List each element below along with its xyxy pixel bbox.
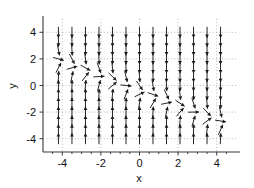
arrow-head	[205, 52, 209, 55]
arrow-head	[60, 58, 64, 62]
arrow-head	[111, 34, 115, 37]
field-arrow	[151, 27, 155, 38]
arrow-head	[84, 34, 88, 37]
field-arrow	[108, 82, 116, 89]
arrow-head	[178, 79, 182, 82]
arrow-head	[165, 61, 169, 64]
field-arrow	[57, 71, 61, 82]
arrow-head	[165, 79, 169, 82]
arrow-head	[165, 70, 169, 73]
arrow-head	[84, 43, 88, 46]
arrow-head	[205, 79, 209, 82]
arrow-head	[151, 52, 155, 55]
field-arrow	[148, 93, 158, 97]
arrow-head	[219, 70, 223, 73]
arrow-head	[192, 61, 196, 64]
arrow-head	[138, 107, 142, 110]
arrow-head	[165, 87, 169, 90]
arrow-head	[101, 75, 105, 79]
arrow-head	[84, 52, 88, 55]
field-arrow	[205, 27, 209, 38]
arrow-head	[165, 34, 169, 37]
arrow-head	[168, 101, 172, 105]
arrow-head	[111, 61, 115, 64]
arrow-head	[97, 34, 101, 37]
arrow-head	[57, 52, 61, 56]
y-tick-label: -2	[26, 106, 36, 118]
field-arrow	[82, 72, 89, 81]
arrow-head	[70, 52, 74, 56]
arrow-head	[111, 52, 115, 55]
x-tick-label: 0	[136, 157, 142, 169]
arrow-head	[73, 65, 77, 69]
arrow-head	[138, 61, 142, 64]
arrow-head	[178, 116, 182, 120]
arrow-head	[70, 43, 74, 46]
x-tick-label: 4	[214, 157, 220, 169]
arrow-head	[70, 34, 74, 37]
x-axis-title: x	[136, 172, 142, 184]
arrow-head	[97, 43, 101, 46]
field-arrow	[203, 118, 212, 125]
field-arrow	[84, 27, 88, 38]
y-tick-label: 4	[30, 26, 36, 38]
arrow-head	[152, 87, 156, 91]
arrow-head	[192, 43, 196, 46]
arrow-head	[165, 52, 169, 55]
arrow-head	[192, 79, 196, 82]
direction-field-figure: -4-2024-4-2024 x y	[0, 0, 254, 188]
arrow-head	[151, 34, 155, 37]
arrow-head	[205, 88, 209, 91]
field-arrow	[215, 119, 226, 123]
field-arrow	[109, 73, 117, 81]
field-arrow	[124, 98, 128, 109]
arrow-head	[111, 43, 115, 46]
arrow-head	[192, 88, 196, 91]
arrow-head	[124, 34, 128, 37]
tick-labels-group: -4-2024-4-2024	[26, 26, 220, 169]
arrow-head	[124, 61, 128, 64]
field-arrow	[81, 65, 91, 70]
arrow-head	[205, 70, 209, 73]
arrow-head	[219, 43, 223, 46]
arrow-head	[138, 52, 142, 55]
arrow-head	[208, 118, 212, 122]
arrow-head	[57, 34, 61, 37]
arrow-head	[165, 43, 169, 46]
y-tick-label: -4	[26, 133, 36, 145]
arrow-head	[219, 61, 223, 64]
field-arrow	[192, 27, 196, 38]
x-tick-label: -4	[57, 157, 67, 169]
field-arrow	[175, 100, 184, 106]
arrow-head	[192, 34, 196, 37]
arrow-head	[84, 80, 88, 84]
arrow-head	[196, 110, 199, 114]
arrow-head	[111, 70, 115, 74]
arrow-head	[125, 78, 129, 82]
y-tick-label: 0	[30, 80, 36, 92]
field-arrow	[136, 81, 142, 90]
arrow-head	[219, 34, 223, 37]
arrow-head	[205, 43, 209, 46]
field-arrow	[70, 27, 74, 38]
arrow-head	[219, 88, 223, 91]
arrow-head	[178, 34, 182, 37]
arrow-head	[97, 52, 101, 55]
arrow-head	[205, 96, 209, 99]
field-arrow	[124, 27, 128, 38]
field-arrow	[121, 84, 132, 88]
arrow-head	[205, 133, 209, 136]
arrow-head	[192, 70, 196, 73]
field-arrow	[161, 101, 172, 105]
arrow-head	[205, 34, 209, 37]
arrow-head	[57, 71, 61, 75]
tick-marks-group	[40, 32, 227, 155]
arrow-head	[192, 52, 196, 55]
x-tick-label: 2	[175, 157, 181, 169]
arrow-head	[178, 88, 182, 91]
arrow-head	[138, 43, 142, 46]
arrow-head	[205, 105, 209, 109]
arrow-head	[128, 84, 132, 88]
arrow-head	[138, 70, 142, 73]
field-arrow	[205, 133, 209, 144]
